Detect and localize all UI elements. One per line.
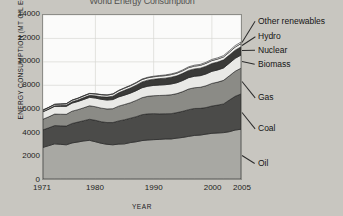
plot-area	[42, 14, 242, 180]
x-tick-label: 1990	[145, 183, 163, 192]
y-tick-label: 2000	[2, 152, 40, 160]
legend-leader-line	[242, 61, 255, 65]
y-tick-label: 12000	[2, 34, 40, 42]
x-tick-label: 1971	[33, 183, 51, 192]
legend-label-gas[interactable]: Gas	[258, 92, 274, 102]
y-tick-label: 8000	[2, 81, 40, 89]
y-tick-label: 4000	[2, 129, 40, 137]
y-tick-label: 6000	[2, 105, 40, 113]
y-tick-label: 14000	[2, 10, 40, 18]
stacked-area-svg	[43, 15, 241, 179]
legend-label-hydro[interactable]: Hydro	[258, 31, 281, 41]
legend-label-coal[interactable]: Coal	[258, 123, 275, 133]
chart-title: World Energy Consumption	[42, 0, 242, 6]
legend-label-other-renewables[interactable]: Other renewables	[258, 16, 325, 26]
x-axis-label: YEAR	[42, 203, 242, 210]
legend-leader-line	[242, 155, 256, 164]
legend-label-biomass[interactable]: Biomass	[258, 59, 291, 69]
x-tick-label: 1980	[86, 183, 104, 192]
legend-leader-line	[242, 81, 256, 98]
legend-label-nuclear[interactable]: Nuclear	[258, 45, 287, 55]
legend-label-oil[interactable]: Oil	[258, 158, 268, 168]
x-tick-label: 2000	[204, 183, 222, 192]
y-tick-label: 10000	[2, 57, 40, 65]
energy-consumption-area-chart: World Energy Consumption ENERGY CONSUMPT…	[0, 0, 343, 216]
legend-leader-line	[242, 50, 255, 51]
legend-leader-line	[242, 112, 256, 129]
x-tick-label: 2005	[233, 183, 251, 192]
